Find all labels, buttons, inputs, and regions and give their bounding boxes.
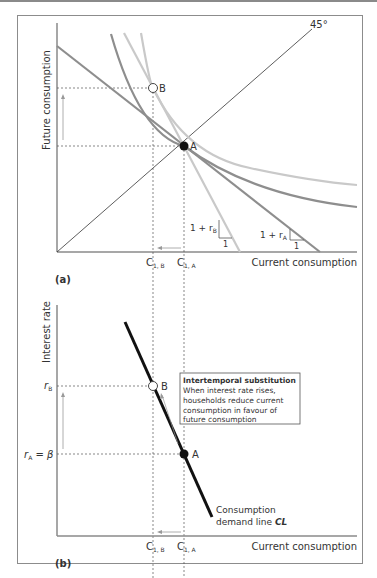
- callout-line: future consumption: [183, 415, 257, 424]
- y-axis-label: Future consumption: [41, 50, 52, 150]
- tick-c1a: C1, A: [177, 257, 197, 269]
- slope-b-run: 1: [223, 240, 228, 249]
- panel-a: B A 45° Future consumption Current consu…: [41, 19, 357, 578]
- point-b-label: B: [159, 83, 166, 94]
- tick-ra: rA = β: [24, 449, 54, 461]
- point-b-label: B: [161, 381, 168, 392]
- point-a-marker: [180, 450, 189, 459]
- slope-b-label: 1 + rB: [190, 223, 217, 234]
- cl-label-line1: Consumption: [216, 505, 276, 515]
- point-a-label: A: [190, 141, 197, 152]
- diagram: B A 45° Future consumption Current consu…: [0, 0, 377, 578]
- x-axis-label: Current consumption: [252, 541, 357, 552]
- callout-line: consumption in favour of: [183, 406, 277, 415]
- callout-line: households reduce current: [183, 396, 283, 405]
- tick-c1b: C1, B: [146, 541, 165, 553]
- panel-b: B A Interest rate Current consumption (b…: [24, 301, 357, 569]
- x-axis-label: Current consumption: [252, 257, 357, 268]
- slope-a-label: 1 + rA: [260, 230, 288, 241]
- tick-c1b: C1, B: [146, 257, 165, 269]
- tick-c1a: C1, A: [177, 541, 197, 553]
- callout-title: Intertemporal substitution: [183, 376, 296, 385]
- tick-rb: rB: [44, 380, 52, 392]
- arrow-left-icon: [157, 530, 162, 534]
- point-b-marker: [149, 84, 158, 93]
- 45-degree-line: [57, 29, 312, 252]
- cl-label-line2: demand line CL: [216, 517, 288, 527]
- arrow-left-icon: [157, 246, 162, 250]
- y-axis-label: Interest rate: [41, 301, 52, 363]
- panel-tag: (b): [55, 558, 71, 569]
- slope-a-run: 1: [294, 242, 299, 251]
- arrow-up-icon: [61, 392, 65, 397]
- point-b-marker: [149, 382, 158, 391]
- substitution-arrow: [162, 395, 178, 444]
- point-a-marker: [180, 142, 189, 151]
- indifference-curve-b: [141, 33, 357, 185]
- angle-label: 45°: [310, 19, 328, 30]
- callout-line: When interest rate rises,: [183, 386, 276, 395]
- panel-tag: (a): [55, 274, 71, 285]
- arrow-up-icon: [61, 94, 65, 99]
- point-a-label: A: [192, 449, 199, 460]
- arrow-up-icon: [160, 393, 164, 399]
